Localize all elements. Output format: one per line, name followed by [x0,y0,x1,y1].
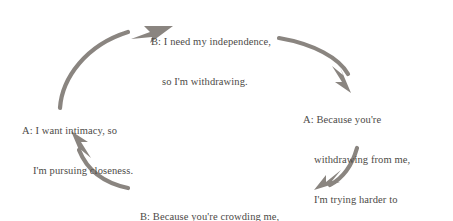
cycle-node-right: A: Because you're withdrawing from me, I… [303,87,410,221]
cycle-node-right-line-2: withdrawing from me, [303,153,410,166]
cycle-node-top: B: I need my independence, so I'm withdr… [151,9,271,115]
cycle-node-left-line-2: I'm pursuing closeness. [22,164,133,177]
cycle-node-top-line-1: B: I need my independence, [151,35,271,48]
cycle-node-top-line-2: so I'm withdrawing. [151,75,271,88]
arrow-top-to-right [279,38,351,93]
cycle-node-right-line-3: I'm trying harder to [303,193,410,206]
cycle-node-bottom: B: Because you're crowding me, I'm withd… [140,184,279,221]
cycle-diagram: B: I need my independence, so I'm withdr… [0,0,453,221]
cycle-node-left: A: I want intimacy, so I'm pursuing clos… [22,98,133,204]
cycle-node-left-line-1: A: I want intimacy, so [22,124,133,137]
cycle-node-bottom-line-1: B: Because you're crowding me, [140,210,279,221]
cycle-node-right-line-1: A: Because you're [303,113,410,126]
